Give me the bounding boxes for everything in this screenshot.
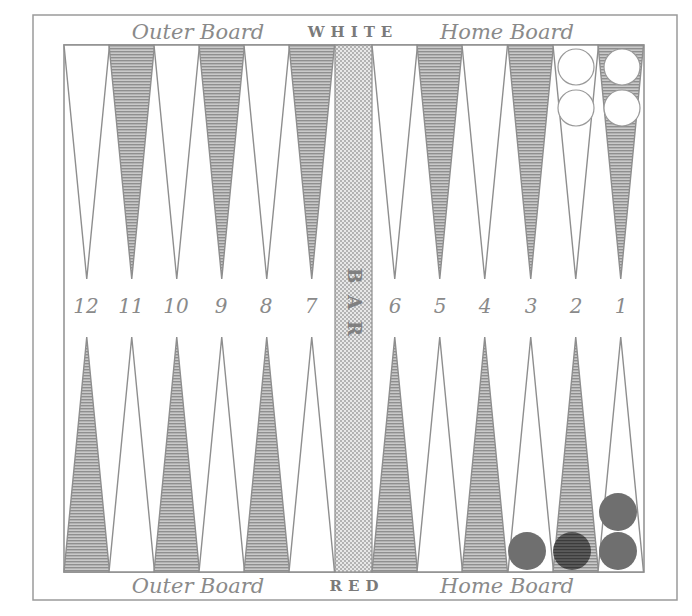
red-checker[interactable] bbox=[508, 532, 546, 570]
point-number-12: 12 bbox=[73, 294, 98, 318]
white-checker[interactable] bbox=[604, 49, 640, 85]
point-number-6: 6 bbox=[389, 294, 402, 318]
bottom-outer-board-label: Outer Board bbox=[132, 574, 264, 598]
red-checker[interactable] bbox=[599, 532, 637, 570]
point-number-5: 5 bbox=[434, 294, 447, 318]
white-side-label: WHITE bbox=[307, 23, 399, 41]
bottom-home-board-label: Home Board bbox=[439, 574, 574, 598]
white-checker[interactable] bbox=[604, 90, 640, 126]
white-checker[interactable] bbox=[558, 49, 594, 85]
point-number-10: 10 bbox=[163, 294, 189, 318]
point-number-3: 3 bbox=[525, 294, 538, 318]
point-number-9: 9 bbox=[215, 294, 228, 318]
point-number-11: 11 bbox=[118, 294, 143, 318]
backgammon-board: Outer Board WHITE Home Board BAR 12 11 1… bbox=[0, 0, 692, 616]
point-number-8: 8 bbox=[260, 294, 273, 318]
point-number-2: 2 bbox=[569, 294, 583, 318]
point-number-7: 7 bbox=[305, 294, 318, 318]
red-checker[interactable] bbox=[599, 493, 637, 531]
point-number-4: 4 bbox=[478, 294, 492, 318]
point-number-1: 1 bbox=[615, 294, 628, 318]
red-side-label: RED bbox=[330, 577, 385, 595]
top-home-board-label: Home Board bbox=[439, 20, 574, 44]
top-outer-board-label: Outer Board bbox=[132, 20, 264, 44]
red-checker[interactable] bbox=[553, 532, 591, 570]
bar-label: BAR bbox=[344, 268, 365, 348]
white-checker[interactable] bbox=[558, 90, 594, 126]
